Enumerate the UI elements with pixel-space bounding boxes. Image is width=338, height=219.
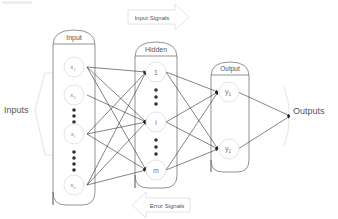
error-signals-label: Error Signals <box>150 203 185 209</box>
ellipsis-dots-hidden-1 <box>154 88 158 106</box>
layer-title-input: Input <box>66 34 82 42</box>
svg-text:m: m <box>153 167 159 174</box>
outputs-side: Outputs <box>284 87 325 146</box>
outputs-label: Outputs <box>293 106 325 116</box>
inputs-label: Inputs <box>4 105 29 115</box>
inputs-side: Inputs <box>4 73 52 155</box>
neural-network-diagram: Input Signals Error Signals Inputs Outpu… <box>0 0 338 219</box>
ellipsis-dots-input-1 <box>72 108 76 124</box>
input-signals-arrow: Input Signals <box>128 4 189 30</box>
layer-title-hidden: Hidden <box>145 46 167 53</box>
caption-fragment <box>2 1 32 4</box>
layer-title-output: Output <box>220 65 240 73</box>
ellipsis-dots-hidden-2 <box>154 138 158 156</box>
error-signals-arrow: Error Signals <box>132 192 190 218</box>
svg-text:1: 1 <box>154 69 158 76</box>
input-signals-label: Input Signals <box>135 15 170 21</box>
inputs-brace <box>35 73 52 155</box>
